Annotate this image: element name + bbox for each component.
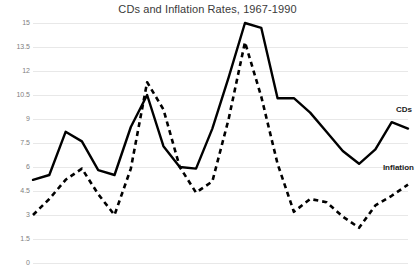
y-tick-label: 4.5 — [4, 187, 30, 195]
y-tick-label: 6 — [4, 163, 30, 171]
chart-container: CDs and Inflation Rates, 1967-1990 1513.… — [0, 0, 415, 266]
chart-title: CDs and Inflation Rates, 1967-1990 — [0, 3, 415, 15]
series-line-cds — [33, 23, 408, 180]
series-label-inflation: Inflation — [383, 163, 414, 172]
y-tick-label: 13.5 — [4, 43, 30, 51]
series-line-inflation — [33, 42, 408, 228]
y-tick-label: 10.5 — [4, 91, 30, 99]
y-tick-label: 9 — [4, 115, 30, 123]
y-tick-label: 0 — [4, 259, 30, 266]
y-axis: 1513.51210.597.564.531.50 — [0, 23, 30, 266]
y-tick-label: 12 — [4, 67, 30, 75]
y-tick-label: 1.5 — [4, 235, 30, 243]
y-tick-label: 7.5 — [4, 139, 30, 147]
gridline — [33, 263, 408, 264]
y-tick-label: 15 — [4, 19, 30, 27]
series-label-cds: CDs — [396, 105, 412, 114]
y-tick-label: 3 — [4, 211, 30, 219]
series-layer — [33, 23, 408, 263]
